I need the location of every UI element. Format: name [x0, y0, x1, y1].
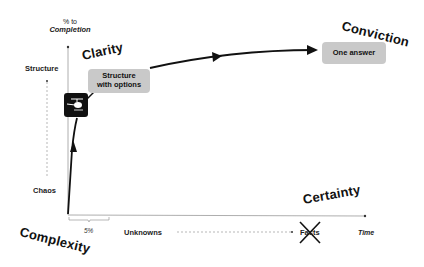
y-scale-bottom-label: Chaos: [33, 186, 56, 195]
bracket-label: 5%: [84, 227, 93, 234]
one-answer-box: One answer: [322, 42, 386, 64]
box-line2: with options: [88, 80, 150, 89]
y-axis-title-line2: Completion: [40, 26, 100, 34]
curve-lower: [68, 118, 77, 214]
arrow-up: [70, 141, 77, 152]
x-axis-label: Time: [358, 229, 374, 236]
arrow-mid: [212, 52, 222, 62]
curve-upper: [150, 50, 315, 68]
structure-with-options-box: Structure with options: [88, 69, 150, 93]
box-line1: Structure: [88, 71, 150, 80]
y-axis-title: % to Completion: [40, 18, 100, 34]
x-scale-left-label: Unknowns: [124, 228, 162, 237]
x-axis: [68, 215, 365, 216]
x-scale-right-label: Facts: [300, 228, 320, 237]
arrow-end: [307, 45, 318, 55]
y-scale-top-label: Structure: [25, 64, 58, 73]
diagram-canvas: [0, 0, 424, 267]
five-percent-bracket: [69, 217, 109, 222]
